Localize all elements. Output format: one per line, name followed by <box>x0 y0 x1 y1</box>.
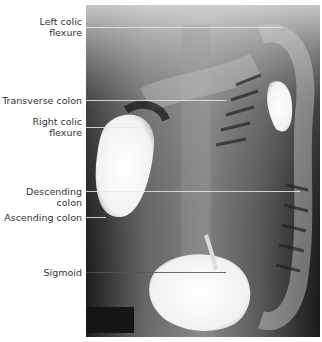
label-transverse-colon: Transverse colon <box>2 95 82 106</box>
label-sigmoid: Sigmoid <box>44 267 82 278</box>
leader-line-descending-colon <box>86 191 300 192</box>
radiograph-graphic <box>86 5 320 337</box>
leader-line-left-colic-flexure <box>86 27 282 28</box>
leader-line-sigmoid <box>86 272 226 273</box>
leader-line-ascending-colon <box>86 217 106 218</box>
label-descending-colon: Descending colon <box>0 186 82 208</box>
leader-line-right-colic-flexure <box>86 127 142 128</box>
xray-image <box>86 5 320 337</box>
label-ascending-colon: Ascending colon <box>4 212 82 223</box>
label-right-colic-flexure: Right colic flexure <box>32 116 82 138</box>
leader-line-transverse-colon <box>86 100 226 101</box>
label-left-colic-flexure: Left colic flexure <box>40 16 82 38</box>
